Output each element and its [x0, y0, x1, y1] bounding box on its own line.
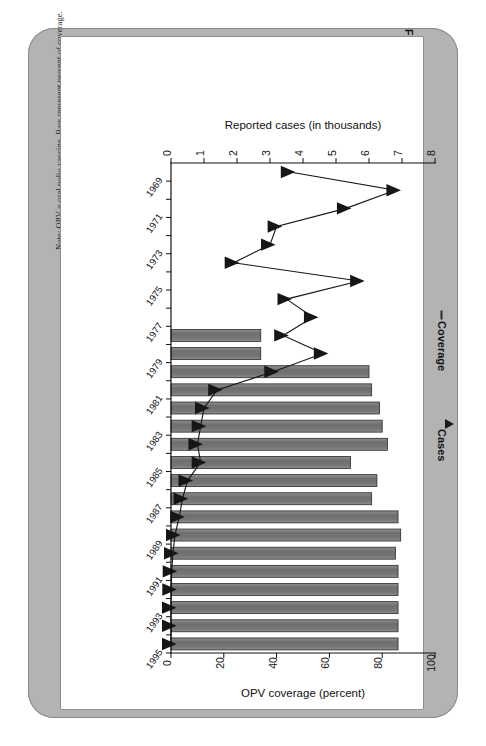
bottom-axis-title: OPV coverage (percent) [241, 687, 365, 699]
top-tick-label: 6 [359, 150, 371, 156]
bottom-tick-label: 20 [214, 657, 226, 669]
bar-1987 [171, 493, 372, 505]
top-tick-label: 8 [425, 150, 437, 156]
case-marker-1977 [304, 311, 319, 323]
year-label-1993: 1993 [144, 611, 165, 635]
bottom-tick-label: 0 [161, 660, 173, 666]
figure-page: Note: OPV = oral polio vaccine. Bars rep… [0, 0, 486, 746]
bar-1990 [171, 547, 395, 559]
year-label-1987: 1987 [144, 502, 165, 526]
bar-1979 [171, 348, 261, 360]
bar-1995 [171, 638, 398, 650]
bottom-tick-label: 80 [372, 657, 384, 669]
bar-1978 [171, 329, 261, 341]
year-label-1975: 1975 [144, 284, 165, 308]
case-marker-1975 [350, 275, 365, 287]
plot-panel: 012345678Reported cases (in thousands)02… [60, 36, 424, 710]
bar-1993 [171, 602, 398, 614]
top-axis-title: Reported cases (in thousands) [225, 119, 382, 131]
bar-1991 [171, 565, 398, 577]
year-label-1991: 1991 [144, 574, 165, 598]
top-tick-label: 1 [194, 150, 206, 156]
case-marker-1973 [261, 238, 276, 250]
year-label-1979: 1979 [144, 357, 165, 381]
top-tick-label: 5 [326, 150, 338, 156]
top-tick-label: 7 [392, 150, 404, 156]
bottom-tick-label: 40 [267, 657, 279, 669]
bar-1989 [171, 529, 401, 541]
year-label-1995: 1995 [144, 647, 165, 671]
bottom-tick-label: 60 [319, 657, 331, 669]
top-tick-label: 0 [161, 150, 173, 156]
top-tick-label: 3 [260, 150, 272, 156]
top-tick-label: 4 [293, 150, 305, 156]
bar-1981 [171, 384, 372, 396]
year-label-1983: 1983 [144, 429, 165, 453]
bar-1988 [171, 511, 398, 523]
year-label-1977: 1977 [144, 320, 165, 344]
case-marker-1974 [225, 257, 240, 269]
bar-1994 [171, 620, 398, 632]
bar-1986 [171, 475, 377, 487]
bottom-tick-label: 100 [425, 654, 437, 672]
top-tick-label: 2 [227, 150, 239, 156]
year-label-1985: 1985 [144, 465, 165, 489]
case-marker-1971 [337, 202, 352, 214]
case-marker-1976 [278, 293, 293, 305]
bar-1992 [171, 583, 398, 595]
year-label-1969: 1969 [144, 175, 165, 199]
year-label-1989: 1989 [144, 538, 165, 562]
case-marker-1970 [386, 184, 401, 196]
case-marker-1969 [281, 166, 296, 178]
year-label-1981: 1981 [144, 393, 165, 417]
year-label-1973: 1973 [144, 248, 165, 272]
chart-svg: 012345678Reported cases (in thousands)02… [93, 45, 457, 719]
figure-card: Note: OPV = oral polio vaccine. Bars rep… [28, 28, 458, 718]
year-label-1971: 1971 [144, 211, 165, 235]
bar-1984 [171, 438, 387, 450]
case-marker-1978 [274, 329, 289, 341]
case-marker-1979 [314, 347, 329, 359]
